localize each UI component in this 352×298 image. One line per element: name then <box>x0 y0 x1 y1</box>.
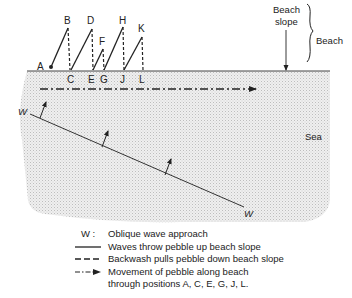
beach-slope-label-line1: Beach <box>273 4 300 15</box>
swash-e-f <box>93 49 103 70</box>
legend-item-backwash: Backwash pulls pebble down beach slope <box>72 253 284 266</box>
legend-text: Backwash pulls pebble down beach slope <box>108 253 284 266</box>
backwash-k-l <box>142 37 143 70</box>
point-label-j: J <box>120 74 125 85</box>
legend-key-w: W : <box>72 228 104 240</box>
point-label-c: C <box>67 74 74 85</box>
swash-c-d <box>71 29 92 70</box>
point-label-g: G <box>100 74 108 85</box>
point-label-d: D <box>87 15 94 26</box>
backwash-d-e <box>92 29 93 70</box>
legend-item-drift: Movement of pebble along beach <box>72 266 284 279</box>
beach-slope-label-line2: slope <box>275 16 298 27</box>
legend-item-upswash: Waves throw pebble up beach slope <box>72 241 284 254</box>
backwash-f-g <box>103 49 104 70</box>
upswash-lines <box>51 27 142 70</box>
beach-label: Beach <box>316 35 343 46</box>
wave-label-start: W <box>18 106 28 117</box>
point-label-a: A <box>37 61 44 72</box>
swash-g-h <box>104 27 123 70</box>
sea-label: Sea <box>305 131 323 142</box>
sea-area <box>20 71 330 222</box>
backwash-lines <box>68 27 143 70</box>
solid-line-icon <box>72 241 104 253</box>
legend-text: Waves throw pebble up beach slope <box>108 241 261 254</box>
point-label-e: E <box>88 74 95 85</box>
dashed-line-icon <box>72 253 104 265</box>
legend: W : Oblique wave approach Waves throw pe… <box>72 228 284 291</box>
swash-a-b <box>51 28 68 67</box>
legend-text: through positions A, C, E, G, J, L. <box>108 278 248 291</box>
backwash-h-j <box>123 27 124 70</box>
swash-j-k <box>124 37 142 70</box>
point-label-k: K <box>138 23 145 34</box>
point-label-l: L <box>139 74 145 85</box>
backwash-b-c <box>68 28 70 70</box>
wave-label-end: W <box>244 208 254 219</box>
legend-text: Oblique wave approach <box>108 228 208 241</box>
legend-item-wave: W : Oblique wave approach <box>72 228 284 241</box>
dash-dot-arrow-icon <box>72 266 104 278</box>
point-label-b: B <box>64 15 71 26</box>
beach-brace <box>307 4 313 62</box>
pebble-dot <box>49 65 53 69</box>
point-label-h: H <box>119 15 126 26</box>
legend-text: Movement of pebble along beach <box>108 266 249 279</box>
point-label-f: F <box>99 36 105 47</box>
legend-item-drift-continued: through positions A, C, E, G, J, L. <box>72 278 284 291</box>
